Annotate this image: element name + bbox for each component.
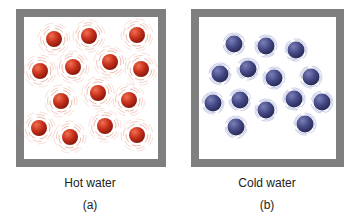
water-molecule: [121, 92, 137, 108]
water-molecule: [62, 129, 78, 145]
water-molecule: [46, 31, 62, 47]
hot-water-molecules: [17, 13, 163, 159]
water-molecule: [102, 54, 118, 70]
water-molecule: [288, 42, 305, 59]
water-molecule: [53, 93, 69, 109]
water-molecule: [129, 27, 145, 43]
water-molecule: [97, 118, 113, 134]
water-molecule: [303, 69, 320, 86]
water-molecule: [228, 119, 245, 136]
water-molecule: [212, 66, 229, 83]
water-molecule: [65, 59, 81, 75]
molecules-layer: [0, 0, 356, 224]
water-molecule: [129, 127, 145, 143]
cold-water-molecules: [199, 31, 335, 141]
hot-water-caption: Hot water: [30, 176, 150, 190]
water-molecule: [133, 61, 149, 77]
water-molecule: [240, 61, 257, 78]
water-molecule: [286, 91, 303, 108]
water-molecule: [205, 95, 222, 112]
panel-b-letter: (b): [207, 198, 327, 212]
cold-water-caption: Cold water: [207, 176, 327, 190]
water-molecule: [266, 70, 283, 87]
water-molecule: [226, 36, 243, 53]
water-molecule: [81, 28, 97, 44]
water-molecule: [314, 94, 331, 111]
water-molecule: [31, 120, 47, 136]
water-molecule: [90, 85, 106, 101]
water-molecule: [258, 38, 275, 55]
water-molecule: [297, 116, 314, 133]
panel-a-letter: (a): [30, 198, 150, 212]
water-molecule: [258, 102, 275, 119]
water-molecule: [32, 63, 48, 79]
water-molecule: [232, 92, 249, 109]
